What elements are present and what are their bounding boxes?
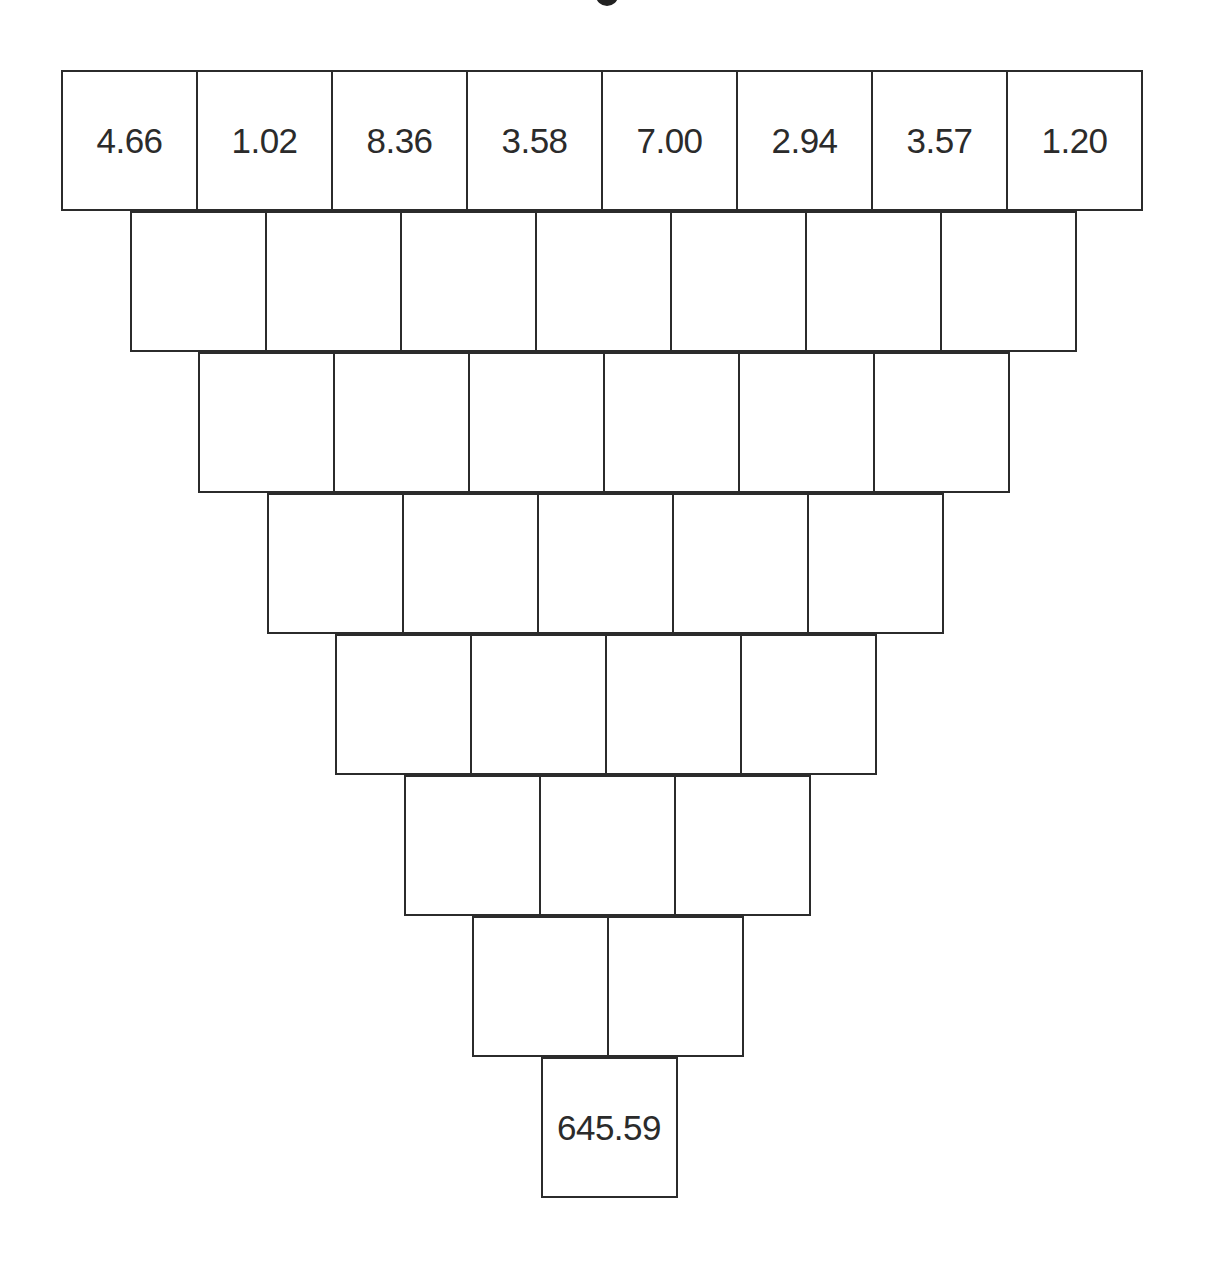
pyramid-cell (470, 634, 607, 775)
pyramid-cell (537, 493, 674, 634)
pyramid-cell: 1.20 (1006, 70, 1143, 211)
pyramid-cell: 8.36 (331, 70, 468, 211)
pyramid-row-4 (267, 493, 944, 634)
pyramid-cell (333, 352, 470, 493)
pyramid-cell: 3.57 (871, 70, 1008, 211)
pyramid-row-5 (335, 634, 877, 775)
pyramid-cell (805, 211, 942, 352)
pyramid-cell (404, 775, 541, 916)
pyramid-cell (674, 775, 811, 916)
pyramid-cell (402, 493, 539, 634)
pyramid-cell: 645.59 (541, 1057, 678, 1198)
pyramid-cell (607, 916, 744, 1057)
pyramid-row-6 (404, 775, 811, 916)
number-pyramid: 4.661.028.363.587.002.943.571.20645.59 (0, 0, 1227, 1263)
pyramid-cell (873, 352, 1010, 493)
pyramid-row-1: 4.661.028.363.587.002.943.571.20 (61, 70, 1143, 211)
pyramid-cell (740, 634, 877, 775)
pyramid-cell (672, 493, 809, 634)
pyramid-cell: 7.00 (601, 70, 738, 211)
pyramid-cell: 1.02 (196, 70, 333, 211)
pyramid-cell (335, 634, 472, 775)
pyramid-cell: 2.94 (736, 70, 873, 211)
pyramid-cell (468, 352, 605, 493)
pyramid-row-3 (198, 352, 1010, 493)
pyramid-cell (603, 352, 740, 493)
pyramid-row-2 (130, 211, 1077, 352)
pyramid-cell: 3.58 (466, 70, 603, 211)
pyramid-row-8: 645.59 (541, 1057, 678, 1198)
pyramid-cell (738, 352, 875, 493)
pyramid-cell (472, 916, 609, 1057)
pyramid-cell (535, 211, 672, 352)
pyramid-cell (670, 211, 807, 352)
pyramid-cell (267, 493, 404, 634)
pyramid-cell (400, 211, 537, 352)
pyramid-cell (539, 775, 676, 916)
pyramid-cell (940, 211, 1077, 352)
pyramid-cell: 4.66 (61, 70, 198, 211)
pyramid-row-7 (472, 916, 744, 1057)
pyramid-cell (807, 493, 944, 634)
pyramid-cell (198, 352, 335, 493)
pyramid-cell (605, 634, 742, 775)
pyramid-cell (265, 211, 402, 352)
pyramid-cell (130, 211, 267, 352)
